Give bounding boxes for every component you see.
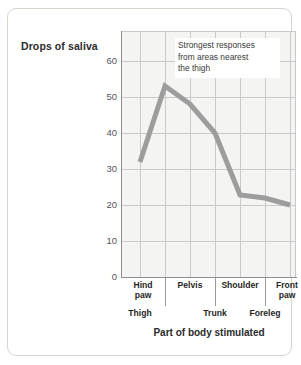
y-tick-label: 20 (91, 199, 117, 210)
y-axis-line (121, 31, 122, 278)
x-label-foreleg: Foreleg (240, 308, 290, 318)
annotation-line-3: the thigh (178, 63, 277, 75)
x-axis-title: Part of body stimulated (121, 327, 297, 338)
x-labels-row-secondary: Thigh Trunk Foreleg (121, 308, 297, 322)
x-label-line-1: Front (276, 280, 298, 290)
x-axis-line (121, 277, 297, 278)
annotation-line-1: Strongest responses (178, 40, 277, 52)
x-label-trunk: Trunk (190, 308, 240, 318)
x-label-line-2: paw (279, 290, 296, 300)
y-tick-label: 50 (91, 91, 117, 102)
y-tick-label: 40 (91, 127, 117, 138)
x-label-pelvis: Pelvis (165, 280, 215, 290)
x-label-thigh: Thigh (115, 308, 165, 318)
y-tick-label: 30 (91, 163, 117, 174)
y-tick-label: 10 (91, 235, 117, 246)
figure-card: Drops of saliva Strongest responses (7, 8, 292, 356)
y-tick-label: 60 (91, 55, 117, 66)
x-label-line-1: Pelvis (178, 280, 203, 290)
chart-annotation: Strongest responses from areas nearest t… (175, 38, 280, 78)
x-label-front-paw: Front paw (265, 280, 301, 301)
plot-inner: Strongest responses from areas nearest t… (121, 32, 295, 277)
x-label-line-1: Hind (133, 280, 152, 290)
y-tick-labels: 60 50 40 30 20 10 0 (89, 31, 117, 277)
x-labels-row-primary: Hind paw Pelvis Shoulder Front paw (121, 280, 297, 306)
y-axis-title: Drops of saliva (21, 40, 98, 52)
plot-area: Strongest responses from areas nearest t… (121, 31, 296, 277)
x-label-hind-paw: Hind paw (121, 280, 165, 301)
saliva-response-polyline (140, 86, 290, 205)
y-tick-label: 0 (91, 271, 117, 282)
annotation-line-2: from areas nearest (178, 52, 277, 64)
x-label-shoulder: Shoulder (215, 280, 265, 290)
x-label-line-2: paw (135, 290, 152, 300)
x-label-line-1: Shoulder (221, 280, 258, 290)
